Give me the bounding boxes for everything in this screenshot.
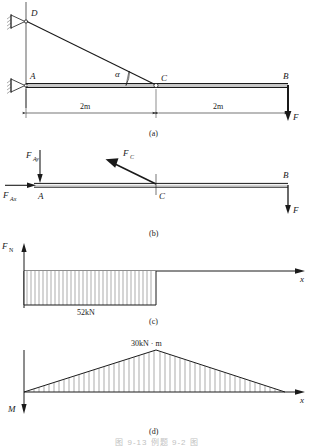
force-arrow-fax [5, 183, 36, 188]
pin-support-d [11, 15, 28, 28]
subfigure-d: x M 30kN · m (d) [0, 330, 314, 448]
force-label-fay-base: F [25, 150, 32, 160]
point-label-b: B [283, 71, 289, 81]
force-label-f: F [292, 112, 299, 122]
pin-joint-c [154, 83, 158, 87]
subfigure-caption-d: (d) [149, 427, 159, 436]
figure-caption: 图 9-13 例题 9-2 图 [0, 436, 314, 448]
force-arrow-f-fbd [285, 185, 291, 214]
subfigure-caption-b: (b) [149, 229, 159, 238]
axial-force-value-label: 52kN [77, 308, 95, 317]
subfigure-caption-a: (a) [149, 129, 158, 138]
figure-page: D A [0, 0, 314, 448]
axis-label-fn-base: F [1, 241, 8, 251]
beam-ab-fbd [34, 183, 288, 187]
force-label-f-fbd: F [292, 205, 299, 215]
point-label-d: D [30, 8, 38, 18]
point-label-a: A [29, 71, 36, 81]
axis-y-m [21, 350, 26, 414]
axis-label-x-d: x [299, 395, 304, 405]
point-label-a-fbd: A [37, 191, 44, 201]
moment-triangle [24, 350, 285, 392]
subfigure-a: D A [0, 0, 314, 140]
pin-support-a [11, 79, 28, 92]
point-label-b-fbd: B [283, 170, 289, 180]
force-label-fax-sub: Ax [9, 196, 17, 202]
dimension-label-ac: 2m [80, 102, 91, 111]
force-arrow-fc [106, 158, 157, 184]
axis-label-m: M [7, 404, 16, 414]
axis-x-d [24, 389, 305, 395]
support-hatch-d [7, 14, 11, 30]
support-hatch-a [7, 78, 11, 94]
point-label-c-fbd: C [159, 191, 166, 201]
force-label-fay-sub: Ay [32, 156, 39, 162]
subfigure-caption-c: (c) [149, 317, 158, 326]
axial-force-block [24, 271, 156, 305]
angle-label-alpha: α [115, 69, 120, 79]
moment-value-label: 30kN · m [131, 339, 162, 348]
subfigure-b: F Ay F Ax A C F C B [0, 142, 314, 242]
point-label-c: C [161, 73, 168, 83]
axis-label-fn-sub: N [9, 247, 14, 253]
subfigure-c: F N x [0, 238, 314, 338]
force-label-fc-base: F [122, 148, 129, 158]
force-label-fc-sub: C [130, 154, 135, 160]
axis-label-x-c: x [299, 274, 304, 284]
force-label-fax-base: F [2, 190, 9, 200]
dimension-label-cb: 2m [213, 102, 224, 111]
rod-dc [27, 22, 156, 86]
